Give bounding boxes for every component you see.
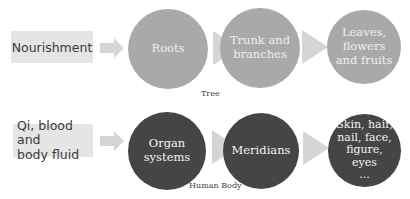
roots-label: Roots (151, 42, 184, 56)
meridians-node: Meridians (223, 113, 299, 189)
chevron-arrow-icon (303, 131, 329, 165)
skin-hair-nail-node: Skin, hair, nail, face, figure, eyes ... (328, 114, 401, 187)
human-body-caption: Human Body (189, 181, 242, 190)
meridians-label: Meridians (232, 144, 291, 158)
skin-hair-nail-label: Skin, hair, nail, face, figure, eyes ... (332, 119, 397, 182)
leaves-flowers-fruits-label: Leaves, flowers and fruits (336, 26, 393, 67)
roots-node: Roots (128, 9, 208, 89)
nourishment-label: Nourishment (12, 40, 93, 55)
leaves-flowers-fruits-node: Leaves, flowers and fruits (327, 10, 401, 84)
trunk-branches-node: Trunk and branches (220, 8, 300, 88)
qi-blood-fluid-box: Qi, blood and body fluid (13, 124, 93, 157)
block-arrow-icon (100, 38, 124, 58)
trunk-branches-label: Trunk and branches (230, 34, 290, 62)
tree-caption: Tree (201, 89, 220, 98)
chevron-arrow-icon (302, 30, 328, 64)
qi-blood-fluid-label: Qi, blood and body fluid (17, 119, 93, 162)
block-arrow-icon (100, 131, 124, 151)
nourishment-box: Nourishment (11, 31, 93, 63)
organ-systems-label: Organ systems (144, 137, 191, 165)
organ-systems-node: Organ systems (128, 112, 206, 190)
